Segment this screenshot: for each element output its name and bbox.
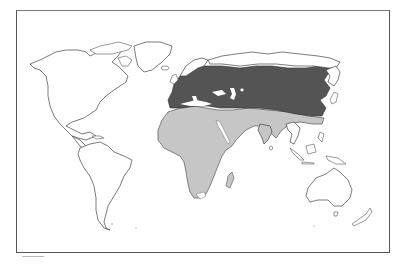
scale-mark: [22, 256, 44, 261]
madagascar: [226, 172, 234, 188]
india: [258, 124, 272, 144]
sri-lanka: [269, 146, 272, 150]
far-east: [326, 66, 340, 86]
java: [302, 162, 314, 164]
aral-sea: [240, 89, 243, 92]
world-map: [0, 0, 395, 266]
caribbean-islands: [92, 136, 104, 139]
tasmania: [334, 212, 338, 216]
philippines: [318, 132, 324, 142]
secondary-range: [158, 106, 324, 198]
falkland-islands: [111, 223, 112, 224]
borneo: [306, 144, 316, 154]
australia: [306, 168, 352, 206]
arctic-coast: [208, 52, 340, 68]
arctic-islands: [90, 42, 132, 54]
sumatra: [290, 148, 304, 160]
new-guinea: [326, 156, 346, 164]
island-dot: [135, 227, 136, 228]
southeast-asia: [286, 122, 300, 144]
north-america: [30, 46, 128, 140]
baffin-island: [118, 56, 132, 66]
new-zealand: [352, 208, 372, 226]
island-dot: [313, 225, 314, 226]
south-america: [78, 142, 132, 230]
japan: [330, 92, 338, 104]
iceland: [161, 66, 169, 70]
